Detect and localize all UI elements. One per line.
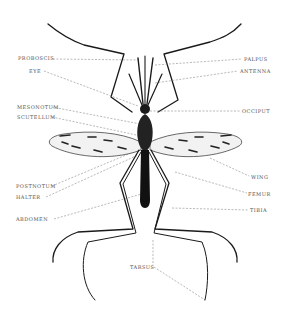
label-wing: WING: [251, 174, 268, 180]
label-occiput: OCCIPUT: [242, 108, 270, 114]
label-eye: EYE: [29, 68, 41, 74]
label-abdomen: ABDOMEN: [16, 216, 48, 222]
label-postnotum: POSTNOTUM: [16, 183, 56, 189]
label-scutellum: SCUTELLUM: [17, 114, 56, 120]
label-halter: HALTER: [16, 194, 41, 200]
label-proboscis: PROBOSCIS: [18, 55, 54, 61]
body: [137, 104, 152, 208]
label-tarsus: TARSUS: [130, 264, 155, 270]
head-appendages: [129, 56, 162, 105]
label-tibia: TIBIA: [250, 207, 267, 213]
label-mesonotum: MESONOTUM: [17, 104, 59, 110]
label-femur: FEMUR: [248, 191, 271, 197]
label-antenna: ANTENNA: [240, 68, 271, 74]
mosquito-anatomy-diagram: PROBOSCIS EYE MESONOTUM SCUTELLUM POSTNO…: [0, 0, 283, 315]
label-palpus: PALPUS: [244, 56, 268, 62]
